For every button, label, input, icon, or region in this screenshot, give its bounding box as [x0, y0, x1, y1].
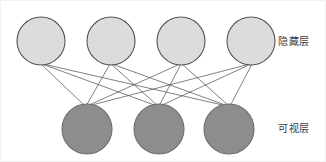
hidden-node-2 — [87, 17, 135, 65]
connection-edge — [42, 64, 157, 106]
connection-edges — [41, 64, 252, 106]
visible-node-3 — [204, 104, 254, 154]
visible-node-1 — [62, 104, 112, 154]
connection-edge — [87, 64, 180, 106]
connection-edge — [160, 64, 251, 106]
visible-node-2 — [134, 104, 184, 154]
hidden-node-1 — [17, 17, 65, 65]
hidden-node-4 — [227, 17, 275, 65]
connection-edge — [230, 64, 252, 106]
visible-layer-label: 可视层 — [278, 124, 310, 134]
connection-edge — [111, 64, 158, 106]
connection-edge — [88, 64, 250, 106]
hidden-node-3 — [157, 17, 205, 65]
hidden-layer-label: 隐藏层 — [278, 37, 310, 47]
network-graph — [1, 1, 326, 162]
rbm-diagram: 隐藏层 可视层 — [0, 0, 326, 162]
hidden-layer-nodes — [17, 17, 275, 65]
connection-edge — [41, 64, 85, 106]
visible-layer-nodes — [62, 104, 254, 154]
connection-edge — [86, 64, 110, 106]
